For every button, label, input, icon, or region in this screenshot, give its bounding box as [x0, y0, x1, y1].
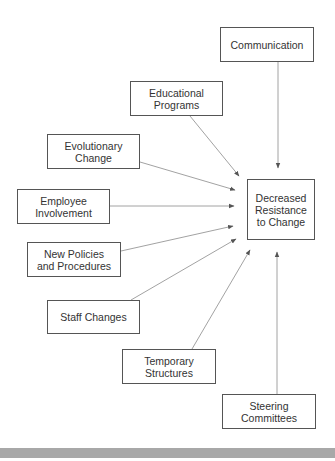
steering-committees-box: Steering Committees: [222, 394, 316, 429]
employee-involvement-box: Employee Involvement: [17, 189, 110, 224]
arrow-staff-changes-to-target: [131, 239, 236, 300]
arrow-temporary-structures-to-target: [192, 250, 250, 349]
communication-box: Communication: [220, 27, 314, 62]
arrow-educational-programs-to-target: [190, 116, 239, 176]
evolutionary-change-box: Evolutionary Change: [47, 134, 140, 169]
new-policies-and-procedures-box: New Policies and Procedures: [27, 242, 121, 277]
decreased-resistance-box: Decreased Resistance to Change: [247, 179, 315, 240]
arrow-new-policies-and-procedures-to-target: [121, 226, 233, 251]
educational-programs-box: Educational Programs: [130, 81, 223, 116]
influence-diagram: Decreased Resistance to Change Communica…: [0, 0, 335, 461]
staff-changes-box: Staff Changes: [47, 300, 140, 334]
temporary-structures-box: Temporary Structures: [122, 349, 216, 384]
bottom-divider-bar: [0, 448, 335, 458]
arrow-evolutionary-change-to-target: [140, 162, 235, 190]
